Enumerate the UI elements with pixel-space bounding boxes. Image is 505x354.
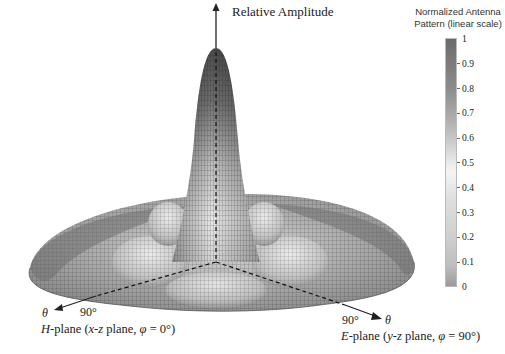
z-axis-label: Relative Amplitude — [232, 4, 333, 20]
h-plane-arrow-icon — [54, 304, 63, 311]
e-plane-caption-text: -plane ( — [349, 329, 388, 343]
e-plane-theta-label: θ — [385, 313, 391, 328]
colorbar-title-line1: Normalized Antenna — [408, 6, 505, 18]
colorbar-tick: 0.6 — [462, 133, 474, 143]
colorbar-tickmark — [457, 162, 460, 163]
colorbar-tick: 0.5 — [462, 158, 474, 168]
h-plane-caption-text: -plane ( — [50, 322, 89, 336]
colorbar-tick: 0.2 — [462, 232, 474, 242]
h-plane-angle-label: 90° — [80, 305, 97, 320]
colorbar-tick: 0.7 — [462, 108, 474, 118]
e-plane-caption-e: E — [341, 329, 349, 343]
h-plane-caption: H-plane (x-z plane, φ = 0°) — [41, 322, 175, 337]
pattern-surface — [29, 48, 414, 311]
colorbar-tickmark — [457, 212, 460, 213]
h-plane-caption-phi: φ — [140, 322, 147, 336]
colorbar-tickmark — [457, 237, 460, 238]
colorbar-tickmark — [457, 187, 460, 188]
colorbar-tick: 0.9 — [462, 59, 474, 69]
antenna-pattern-figure — [0, 0, 505, 354]
colorbar-tickmark — [457, 113, 460, 114]
colorbar-tick: 0.8 — [462, 84, 474, 94]
e-plane-angle-label: 90° — [342, 313, 359, 328]
colorbar-tickmark — [457, 63, 460, 64]
e-plane-caption-yz: y-z — [387, 329, 402, 343]
colorbar-title: Normalized Antenna Pattern (linear scale… — [408, 6, 505, 30]
colorbar-tick: 0 — [462, 282, 467, 292]
h-plane-caption-plane: plane, — [103, 322, 139, 336]
colorbar-tickmark — [457, 138, 460, 139]
h-plane-theta-label: θ — [42, 306, 48, 321]
e-plane-caption-plane: plane, — [402, 329, 438, 343]
e-plane-caption-eq: = 90°) — [445, 329, 480, 343]
z-axis-arrow-icon — [213, 3, 220, 11]
e-plane-arrow-icon — [371, 312, 382, 320]
colorbar-tick: 0.4 — [462, 183, 474, 193]
colorbar-tick: 0.1 — [462, 257, 474, 267]
h-plane-caption-xz: x-z — [89, 322, 104, 336]
colorbar-title-line2: Pattern (linear scale) — [408, 18, 505, 30]
colorbar-tick: 1 — [462, 34, 467, 44]
colorbar-tickmark — [457, 262, 460, 263]
h-plane-caption-eq: = 0°) — [147, 322, 176, 336]
colorbar — [445, 38, 457, 287]
e-plane-caption: E-plane (y-z plane, φ = 90°) — [341, 329, 480, 344]
colorbar-tickmark — [457, 88, 460, 89]
h-plane-caption-h: H — [41, 322, 50, 336]
colorbar-tick: 0.3 — [462, 208, 474, 218]
